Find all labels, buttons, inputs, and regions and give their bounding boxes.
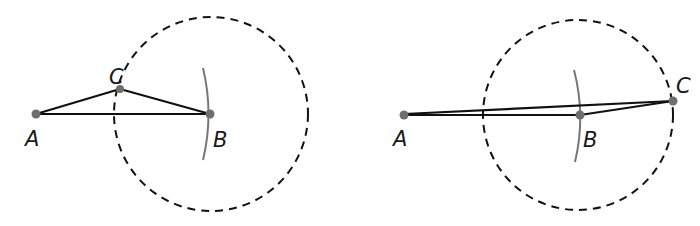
figure-left: A B C [23, 17, 308, 211]
label-a: A [23, 127, 39, 151]
label-b: B [583, 128, 597, 152]
label-b: B [213, 128, 227, 152]
figure-right: A B C [391, 20, 691, 210]
point-a [32, 110, 41, 119]
label-c: C [676, 74, 691, 98]
diagram-canvas: A B C A B C [0, 0, 700, 226]
segment-cb [120, 89, 210, 114]
point-b [206, 110, 215, 119]
point-b [576, 111, 585, 120]
label-a: A [391, 127, 407, 151]
label-c: C [109, 65, 124, 89]
point-a [400, 111, 409, 120]
segment-ac [36, 89, 120, 114]
